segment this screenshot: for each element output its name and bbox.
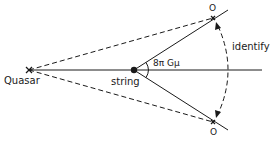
observer-bottom-label: O	[210, 128, 217, 137]
angle-label: 8π Gμ	[153, 59, 180, 68]
identify-label: identify	[232, 42, 270, 52]
string-label: string	[111, 77, 140, 87]
quasar-label: Quasar	[4, 76, 40, 86]
arrowhead-down-icon	[215, 110, 221, 118]
observer-top-label: O	[209, 4, 216, 13]
gravitational-lensing-diagram	[0, 0, 280, 144]
string-marker-icon	[131, 67, 137, 73]
arrowhead-up-icon	[215, 22, 221, 30]
light-path-upper	[29, 18, 213, 70]
